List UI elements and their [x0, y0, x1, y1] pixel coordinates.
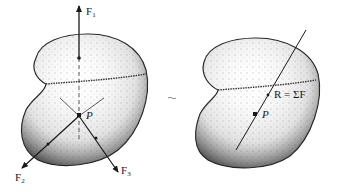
label-f1: F1	[86, 6, 96, 19]
right-point-p	[253, 112, 257, 116]
label-resultant: R = ΣF	[274, 89, 306, 100]
label-f3: F3	[121, 165, 131, 178]
f1-subscript: 1	[92, 11, 96, 19]
label-f2: F2	[15, 172, 25, 185]
left-body	[22, 6, 148, 172]
f3-subscript: 3	[127, 170, 131, 178]
label-right-p: P	[262, 109, 269, 120]
f2-subscript: 2	[21, 177, 25, 185]
left-point-p	[77, 113, 81, 117]
label-left-p: P	[86, 110, 93, 121]
equivalence-tilde	[168, 97, 176, 98]
